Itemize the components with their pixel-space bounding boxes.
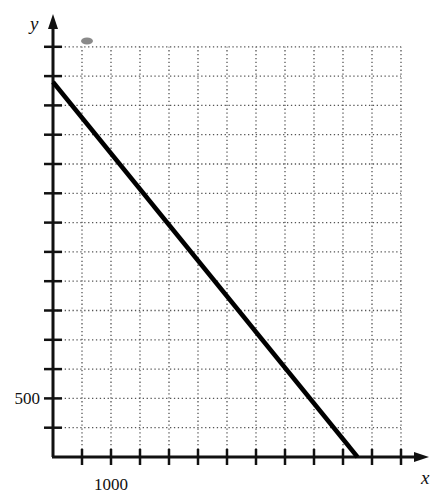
y-axis-label: y <box>28 13 39 34</box>
y-tick-label: 500 <box>15 389 41 408</box>
data-line <box>53 82 358 457</box>
chart: y x 1000500 <box>0 0 442 493</box>
x-axis-arrow-icon <box>414 452 429 462</box>
grid-lines <box>53 47 401 457</box>
x-tick-label: 1000 <box>94 475 128 493</box>
smudge-mark <box>81 38 93 45</box>
axis-ticks <box>44 47 401 465</box>
x-axis-label: x <box>420 467 430 488</box>
data-series <box>53 82 358 457</box>
y-axis-arrow-icon <box>48 14 58 29</box>
